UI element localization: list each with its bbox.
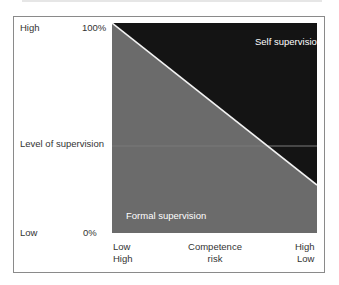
y-axis-low-label: Low [20, 227, 37, 239]
chart-graphic [112, 23, 317, 233]
supervision-chart: Self supervision Formal supervision [112, 23, 317, 233]
self-supervision-label: Self supervision [255, 36, 322, 47]
y-axis-0-percent: 0% [83, 227, 97, 239]
x-axis-left-bottom-label: High [113, 253, 133, 265]
formal-supervision-label: Formal supervision [126, 210, 206, 221]
top-rule [22, 0, 322, 2]
y-axis-title: Level of supervision [20, 138, 104, 150]
y-axis-100-percent: 100% [82, 22, 106, 34]
x-axis-left-top-label: Low [113, 241, 130, 253]
x-axis-right-bottom-label: Low [297, 253, 314, 265]
x-axis-title-line1: Competence [180, 241, 250, 253]
x-axis-title-line2: risk [180, 253, 250, 265]
x-axis-right-top-label: High [295, 241, 315, 253]
y-axis-high-label: High [20, 22, 40, 34]
